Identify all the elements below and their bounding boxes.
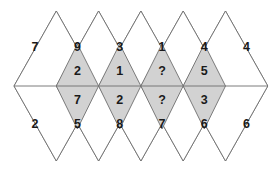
puzzle-figure: 7 9 3 1 4 2 1 ? 5 7 2 ? 3 2 5 8 7 6 (0, 0, 280, 172)
rhombus-lattice-diagram: 7 9 3 1 4 2 1 ? 5 7 2 ? 3 2 5 8 7 6 (0, 0, 280, 172)
